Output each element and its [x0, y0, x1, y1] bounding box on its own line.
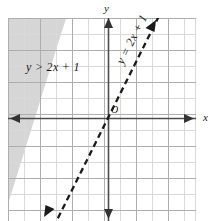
coordinate-plane [8, 18, 196, 221]
inequality-label: y > 2x + 1 [26, 60, 80, 75]
x-axis-label: x [203, 112, 208, 123]
y-axis-label: y [104, 3, 109, 14]
origin-label: O [111, 105, 118, 115]
graph-figure: y x O y > 2x + 1 y = 2x + 1 [0, 0, 214, 221]
